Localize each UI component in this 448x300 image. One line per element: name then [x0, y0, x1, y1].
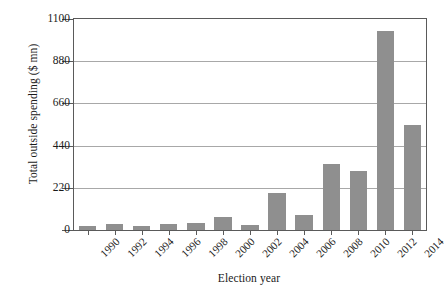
x-axis-tick: [88, 230, 89, 235]
bar-chart-figure: Total outside spending ($ mn) 0220440660…: [0, 0, 448, 300]
bar: [268, 193, 285, 230]
x-axis-tick: [304, 230, 305, 235]
plot-area: 02204406608801100: [73, 18, 427, 231]
y-axis-tick-label: 1100: [47, 13, 70, 25]
x-axis-tick: [115, 230, 116, 235]
x-axis-tick-label: 2004: [288, 236, 311, 259]
x-axis-tick: [250, 230, 251, 235]
x-axis-tick: [142, 230, 143, 235]
y-axis-tick-label: 220: [53, 182, 70, 194]
x-axis-title: Election year: [72, 272, 426, 284]
x-axis-tick: [277, 230, 278, 235]
bar: [404, 125, 421, 230]
x-axis-tick: [196, 230, 197, 235]
bar: [295, 215, 312, 230]
x-axis-tick-label: 1992: [125, 236, 148, 259]
x-axis-tick: [412, 230, 413, 235]
bar: [377, 31, 394, 230]
y-axis-tick-label: 660: [53, 98, 70, 110]
x-axis-tick: [385, 230, 386, 235]
x-axis-tick-label: 1996: [179, 236, 202, 259]
x-axis-tick: [169, 230, 170, 235]
x-axis-tick-label: 2002: [260, 236, 283, 259]
x-axis-tick-label: 2000: [233, 236, 256, 259]
x-axis-tick-label: 2010: [369, 236, 392, 259]
bar: [323, 164, 340, 230]
x-axis-tick-label: 1990: [98, 236, 121, 259]
bar-series: [74, 19, 426, 230]
x-axis-tick: [358, 230, 359, 235]
x-axis-tick: [223, 230, 224, 235]
y-axis-title: Total outside spending ($ mn): [27, 9, 39, 219]
x-axis-tick-label: 2012: [396, 236, 419, 259]
x-axis-tick-label: 2006: [315, 236, 338, 259]
x-axis-tick-label: 2008: [342, 236, 365, 259]
x-axis-tick-label: 1998: [206, 236, 229, 259]
bar: [214, 217, 231, 230]
y-axis-tick-label: 880: [53, 55, 70, 67]
bar: [350, 171, 367, 230]
y-axis-tick-label: 0: [64, 224, 70, 236]
x-axis-tick-label: 1994: [152, 236, 175, 259]
x-axis-tick: [331, 230, 332, 235]
x-axis-tick-label: 2014: [423, 236, 446, 259]
y-axis-tick-label: 440: [53, 140, 70, 152]
